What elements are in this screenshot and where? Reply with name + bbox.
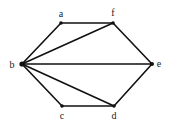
vertex-label-b: b bbox=[10, 59, 15, 70]
edge-a-b bbox=[22, 23, 61, 64]
graph-svg: afbecd bbox=[0, 0, 173, 131]
vertex-c bbox=[60, 104, 64, 108]
edge-b-d bbox=[22, 64, 114, 106]
edge-f-e bbox=[113, 23, 152, 64]
vertex-label-c: c bbox=[60, 110, 65, 121]
vertex-d bbox=[112, 104, 116, 108]
vertex-b bbox=[19, 61, 24, 66]
vertex-e bbox=[150, 62, 154, 66]
graph-diagram: afbecd bbox=[0, 0, 173, 131]
vertex-f bbox=[111, 21, 115, 25]
vertex-label-e: e bbox=[157, 58, 162, 69]
edge-d-e bbox=[114, 64, 152, 106]
vertex-a bbox=[59, 21, 63, 25]
edge-b-f bbox=[22, 23, 113, 64]
edge-b-c bbox=[22, 64, 62, 106]
edges-group bbox=[22, 23, 152, 106]
vertex-label-a: a bbox=[59, 8, 64, 19]
vertex-label-d: d bbox=[112, 110, 117, 121]
vertex-label-f: f bbox=[111, 7, 115, 18]
